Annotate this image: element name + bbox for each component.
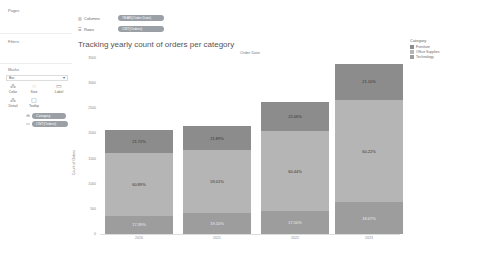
x-tick-label: 2022 <box>261 236 329 240</box>
label-icon: ▭ <box>50 83 68 90</box>
bar-segment-office-supplies[interactable]: 60.22% <box>335 100 403 202</box>
bar-segment-technology[interactable]: 18.67% <box>335 202 403 234</box>
bar-segment-furniture[interactable]: 21.10% <box>335 64 403 100</box>
bar-segment-furniture[interactable]: 22.06% <box>261 102 329 131</box>
legend-item-technology[interactable]: Technology <box>410 54 439 59</box>
size-icon: ◌ <box>25 83 43 90</box>
count-label-pill[interactable]: CNT(Orders) <box>32 121 68 127</box>
stacked-bar[interactable]: 21.10%60.22%18.67% <box>335 64 403 234</box>
y-tick-label: 0 <box>80 232 96 236</box>
divider <box>0 33 72 34</box>
color-mark-icon: ⁂ <box>26 113 30 118</box>
color-button[interactable]: ⁂ Color <box>4 83 22 97</box>
y-tick-label: 3500 <box>80 56 96 60</box>
x-tick-label: 2021 <box>183 236 251 240</box>
label-button[interactable]: ▭ Label <box>50 83 68 97</box>
x-tick-label: 2020 <box>105 236 173 240</box>
tooltip-button[interactable]: ▢ Tooltip <box>25 97 43 111</box>
marks-card-label: Marks <box>8 67 19 72</box>
bar-segment-office-supplies[interactable]: 60.44% <box>261 131 329 211</box>
y-tick-label: 1000 <box>80 182 96 186</box>
y-tick-label: 2000 <box>80 131 96 135</box>
plot-area: 21.72%60.89%17.39%21.89%59.01%19.10%22.0… <box>100 58 400 234</box>
bar-segment-furniture[interactable]: 21.72% <box>105 130 173 152</box>
pages-shelf-label: Pages <box>8 8 19 13</box>
stacked-bar[interactable]: 21.89%59.01%19.10% <box>183 126 251 234</box>
detail-button[interactable]: ⁂ Detail <box>4 97 22 111</box>
column-header: Order Date <box>130 50 370 55</box>
stacked-bar[interactable]: 22.06%60.44%17.50% <box>261 102 329 234</box>
bar-segment-furniture[interactable]: 21.89% <box>183 126 251 150</box>
filters-shelf-label: Filters <box>8 39 19 44</box>
legend-title: Category <box>410 38 439 43</box>
y-tick-label: 2500 <box>80 106 96 110</box>
legend-swatch <box>410 55 414 59</box>
x-tick-label: 2023 <box>335 236 403 240</box>
rows-icon: ☰ <box>78 28 82 32</box>
x-axis-line <box>100 234 400 235</box>
category-color-pill[interactable]: Category <box>32 113 66 119</box>
size-button[interactable]: ◌ Size <box>25 83 43 97</box>
bar-segment-office-supplies[interactable]: 60.89% <box>105 153 173 216</box>
chart-title: Tracking yearly count of orders per cate… <box>78 40 234 49</box>
y-tick-label: 500 <box>80 207 96 211</box>
legend: Category Furniture Office Supplies Techn… <box>410 38 439 59</box>
chevron-down-icon: ▾ <box>63 76 65 80</box>
mark-type-dropdown[interactable]: Bar ▾ <box>6 75 68 81</box>
rows-shelf: ☰Rows <box>78 27 94 32</box>
mark-type-value: Bar <box>9 76 14 80</box>
divider <box>0 63 72 64</box>
bar-segment-office-supplies[interactable]: 59.01% <box>183 150 251 214</box>
y-tick-label: 1500 <box>80 157 96 161</box>
legend-swatch <box>410 50 414 54</box>
left-panel: Pages Filters Marks Bar ▾ ⁂ Color ◌ Size… <box>0 0 72 257</box>
columns-icon: ▥ <box>78 17 82 21</box>
y-axis-title: Count of Orders <box>72 150 76 175</box>
legend-swatch <box>410 45 414 49</box>
columns-shelf: ▥Columns <box>78 16 100 21</box>
detail-icon: ⁂ <box>4 97 22 104</box>
columns-pill[interactable]: YEAR(Order Date) <box>118 15 164 21</box>
bar-segment-technology[interactable]: 19.10% <box>183 213 251 234</box>
bar-segment-technology[interactable]: 17.39% <box>105 216 173 234</box>
label-mark-icon: ▭ <box>26 121 30 126</box>
color-icon: ⁂ <box>4 83 22 90</box>
rows-pill[interactable]: CNT(Orders) <box>118 26 164 32</box>
tooltip-icon: ▢ <box>25 97 43 104</box>
y-tick-label: 3000 <box>80 81 96 85</box>
bar-segment-technology[interactable]: 17.50% <box>261 211 329 234</box>
stacked-bar[interactable]: 21.72%60.89%17.39% <box>105 130 173 234</box>
